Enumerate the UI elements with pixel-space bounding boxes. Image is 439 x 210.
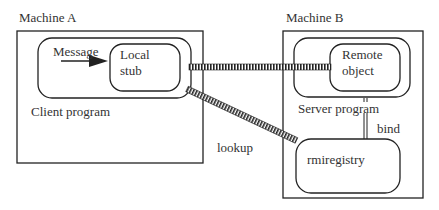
remote-call-link <box>189 64 331 70</box>
local-stub-label-line1: Local <box>120 47 150 62</box>
client-program-label: Client program <box>31 104 110 119</box>
bind-label: bind <box>377 121 400 136</box>
lookup-label: lookup <box>217 140 253 155</box>
server-program-label: Server program <box>298 101 379 116</box>
local-stub-label-line2: stub <box>120 63 142 78</box>
rmiregistry-label: rmiregistry <box>307 152 365 167</box>
machine-b-label: Machine B <box>286 10 343 25</box>
remote-object-label-line2: object <box>342 63 374 78</box>
machine-a-label: Machine A <box>19 10 76 25</box>
machine-a-box <box>17 31 203 163</box>
remote-object-label-line1: Remote <box>342 47 382 62</box>
message-label: Message <box>53 44 99 59</box>
